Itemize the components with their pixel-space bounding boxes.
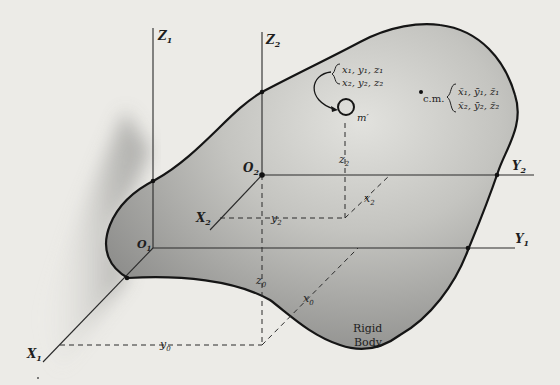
- particle-label: m′: [357, 112, 369, 123]
- y1-label: Y1: [515, 232, 529, 248]
- body-label-line1: Rigid: [353, 322, 382, 335]
- x1-intersection-point: [125, 276, 130, 281]
- z2-intersection-point: [260, 90, 265, 95]
- z1-label: Z1: [157, 29, 172, 45]
- z2-label: Z2: [265, 33, 281, 49]
- particle-coords-line2: x₂, y₂, z₂: [342, 77, 383, 88]
- y2-label: Y2: [512, 159, 527, 175]
- cm-coords-line2: x̄₂, ȳ₂, z̄₂: [458, 100, 499, 111]
- body-label-line2: Body: [354, 336, 383, 349]
- y2-intersection-point: [495, 173, 500, 178]
- particle-coords-line1: x₁, y₁, z₁: [342, 64, 383, 75]
- diagram-canvas: Z1 Z2 O2 O1 X2 X1 Y2 Y1 z2 x2 y2 z0 x0 y…: [0, 0, 560, 385]
- y1-intersection-point: [466, 246, 471, 251]
- cm-label: c.m.: [423, 93, 444, 104]
- origin-o2-point: [259, 172, 265, 178]
- cm-coords-line1: x̄₁, ȳ₁, z̄₁: [458, 86, 499, 97]
- z1-intersection-point: [151, 179, 156, 184]
- paper-speck: [37, 377, 39, 379]
- y0-offset-label: y0: [159, 338, 171, 353]
- x1-label: X1: [26, 347, 42, 363]
- rigid-body-diagram: Z1 Z2 O2 O1 X2 X1 Y2 Y1 z2 x2 y2 z0 x0 y…: [0, 0, 560, 385]
